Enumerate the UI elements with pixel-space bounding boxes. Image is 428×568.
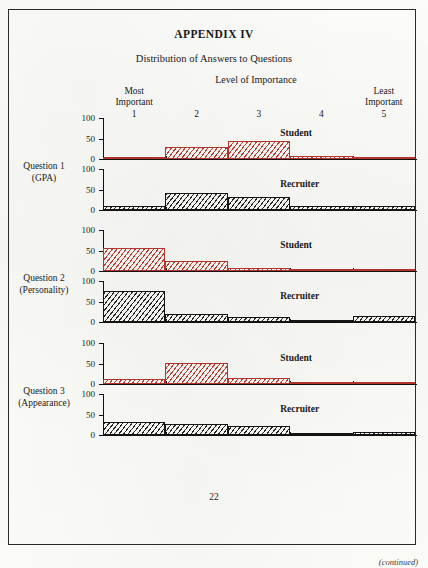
bar-recruiter-4	[290, 206, 352, 210]
bar-recruiter-5	[353, 316, 415, 322]
x-axis-title: Level of Importance	[0, 74, 428, 85]
bar-recruiter-4	[290, 320, 352, 322]
question-label-line2: (Appearance)	[2, 398, 86, 410]
y-axis-label: 100	[69, 165, 95, 174]
bar-recruiter-3	[228, 197, 290, 210]
series-legend-recruiter: Recruiter	[280, 291, 319, 301]
y-axis-label: 50	[69, 411, 95, 420]
y-axis-label: 0	[69, 318, 95, 327]
bar-recruiter-1	[103, 422, 165, 435]
y-tick	[99, 435, 104, 436]
question-block-1: Question 1(GPA)100500Student100500Recrui…	[0, 118, 428, 228]
category-tag-line1: Least	[331, 86, 428, 97]
bar-recruiter-2	[165, 193, 227, 210]
appendix-title: APPENDIX IV	[0, 28, 428, 40]
bar-recruiter-1	[103, 291, 165, 322]
y-tick	[99, 169, 104, 170]
y-axis-label: 100	[69, 390, 95, 399]
continued-note: (continued)	[379, 557, 418, 567]
y-axis-label: 0	[69, 431, 95, 440]
y-axis-label: 100	[69, 277, 95, 286]
question-block-3: Question 3(Appearance)100500Student10050…	[0, 343, 428, 453]
series-row-recruiter: 100500Recruiter	[0, 230, 428, 283]
y-tick	[99, 190, 104, 191]
question-label-line2: (Personality)	[2, 285, 86, 297]
bar-recruiter-3	[228, 317, 290, 322]
chart-subtitle: Distribution of Answers to Questions	[0, 53, 428, 64]
y-axis-label: 0	[69, 206, 95, 215]
y-tick	[99, 394, 104, 395]
y-tick	[99, 281, 104, 282]
category-header: MostImportant1 2 3 4LeastImportant5	[0, 86, 428, 122]
category-tag-line2: Important	[331, 97, 428, 108]
bar-recruiter-5	[353, 432, 415, 435]
bar-recruiter-3	[228, 426, 290, 435]
x-axis-baseline	[103, 210, 417, 211]
series-legend-recruiter: Recruiter	[280, 404, 319, 414]
y-axis-label: 50	[69, 298, 95, 307]
bar-recruiter-2	[165, 314, 227, 322]
x-axis-baseline	[103, 435, 417, 436]
series-row-recruiter: 100500Recruiter	[0, 343, 428, 396]
y-axis-label: 50	[69, 186, 95, 195]
page-number: 22	[0, 492, 428, 502]
x-axis-baseline	[103, 322, 417, 323]
category-label-5: LeastImportant5	[331, 86, 428, 120]
bar-recruiter-4	[290, 433, 352, 435]
series-legend-recruiter: Recruiter	[280, 179, 319, 189]
document-content: APPENDIX IV Distribution of Answers to Q…	[0, 0, 428, 568]
bar-recruiter-2	[165, 424, 227, 435]
question-block-2: Question 2(Personality)100500Student1005…	[0, 230, 428, 340]
y-tick	[99, 415, 104, 416]
series-row-recruiter: 100500Recruiter	[0, 118, 428, 171]
y-tick	[99, 210, 104, 211]
bar-recruiter-1	[103, 206, 165, 210]
y-tick	[99, 322, 104, 323]
bar-recruiter-5	[353, 206, 415, 210]
question-label-line2: (GPA)	[2, 173, 86, 185]
